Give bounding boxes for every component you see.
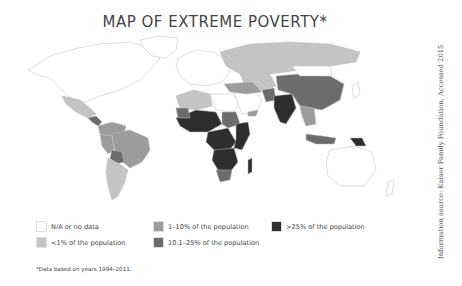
source-credit: Information source: Kaiser Family Founda… [437, 45, 445, 259]
legend-label-lt1: <1% of the population [51, 239, 126, 247]
region-new-zealand [386, 180, 394, 196]
world-map [0, 0, 430, 215]
legend-label-gt25: >25% of the population [286, 223, 365, 231]
region-india [274, 94, 296, 124]
legend-item-gt25: >25% of the population [271, 221, 365, 232]
region-south-africa [216, 170, 232, 182]
legend-item-10-25: 10.1–25% of the population [153, 237, 259, 248]
region-southern-africa [212, 148, 238, 172]
region-argentina-chile [106, 158, 128, 200]
legend-swatch-lt1 [36, 237, 47, 248]
legend-swatch-gt25 [271, 221, 282, 232]
legend-swatch-10-25 [153, 237, 164, 248]
region-east-africa [234, 122, 250, 150]
region-central-america [88, 116, 102, 126]
region-papua-new-guinea [350, 138, 366, 146]
region-north-america [28, 42, 160, 102]
footnote: *Data based on years 1994–2011. [36, 266, 132, 272]
legend-label-10-25: 10.1–25% of the population [168, 239, 259, 247]
legend-item-lt1: <1% of the population [36, 237, 126, 248]
region-southeast-asia [300, 106, 316, 126]
legend-swatch-1-10 [153, 221, 164, 232]
region-indonesia [306, 134, 336, 144]
legend-label-1-10: 1–10% of the population [168, 223, 249, 231]
region-australia [326, 146, 376, 186]
region-japan [352, 82, 360, 98]
region-russia [220, 42, 360, 74]
region-madagascar [248, 158, 252, 174]
region-north-africa-west [176, 90, 212, 110]
legend-label-na: N/A or no data [51, 223, 99, 231]
legend-item-na: N/A or no data [36, 221, 99, 232]
region-mauritania [176, 108, 190, 118]
legend-swatch-na [36, 221, 47, 232]
legend-item-1-10: 1–10% of the population [153, 221, 249, 232]
